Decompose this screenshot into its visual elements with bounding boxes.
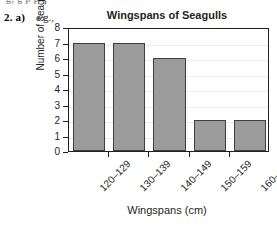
bar bbox=[234, 120, 266, 151]
x-tick-label: 130–139 bbox=[138, 158, 173, 193]
x-tick-label: 160–169 bbox=[258, 158, 277, 193]
y-tick-label: 0 bbox=[46, 147, 60, 157]
x-tick-label: 140–149 bbox=[178, 158, 213, 193]
x-tick-label: 120–129 bbox=[97, 158, 132, 193]
plot-area bbox=[68, 28, 269, 152]
x-tick-label: 150–159 bbox=[218, 158, 253, 193]
x-axis-title: Wingspans (cm) bbox=[61, 204, 273, 216]
y-tick-mark bbox=[63, 152, 68, 153]
bar-series bbox=[69, 29, 268, 151]
bar bbox=[73, 43, 105, 152]
y-tick-label: 4 bbox=[46, 85, 60, 95]
x-tick-mark bbox=[148, 152, 149, 157]
y-tick-label: 2 bbox=[46, 116, 60, 126]
bar bbox=[153, 58, 185, 151]
x-tick-mark bbox=[229, 152, 230, 157]
y-tick-label: 8 bbox=[46, 23, 60, 33]
x-tick-mark bbox=[189, 152, 190, 157]
question-number-label: 2. a) bbox=[4, 11, 25, 23]
y-tick-label: 6 bbox=[46, 54, 60, 64]
bar bbox=[194, 120, 226, 151]
y-axis-title: Number of seagulls bbox=[35, 0, 46, 90]
y-tick-label: 7 bbox=[46, 39, 60, 49]
bar bbox=[113, 43, 145, 152]
x-tick-mark bbox=[108, 152, 109, 157]
cut-off-text-line: g, g p p bbox=[6, 0, 271, 5]
y-tick-label: 1 bbox=[46, 132, 60, 142]
y-tick-label: 3 bbox=[46, 101, 60, 111]
chart-title: Wingspans of Seagulls bbox=[61, 9, 273, 21]
y-tick-label: 5 bbox=[46, 70, 60, 80]
